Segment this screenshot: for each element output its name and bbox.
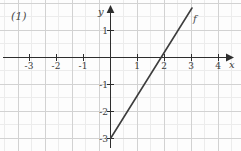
x-axis (3, 54, 234, 62)
y-tick-label--1: -1 (94, 80, 108, 90)
grid-minor (0, 0, 241, 151)
y-axis-label: y (98, 6, 104, 17)
graph-figure: (1) f y x -3 -2 -1 1 2 3 4 1 -1 -2 -3 (0, 0, 241, 151)
x-tick-label--3: -3 (25, 61, 34, 71)
x-tick-label-1: 1 (134, 61, 140, 71)
figure-label: (1) (11, 10, 27, 23)
x-tick-label-4: 4 (215, 61, 221, 71)
y-tick-label--3: -3 (94, 134, 108, 144)
x-axis-label: x (229, 59, 235, 70)
coordinate-plane (0, 0, 241, 151)
x-tick-label-3: 3 (188, 61, 194, 71)
curve-label-f: f (193, 13, 197, 24)
x-tick-label--2: -2 (52, 61, 61, 71)
x-tick-label-2: 2 (161, 61, 167, 71)
y-tick-label--2: -2 (94, 107, 108, 117)
x-tick-label--1: -1 (79, 61, 88, 71)
curve-f (111, 8, 193, 139)
y-tick-label-1: 1 (96, 26, 108, 36)
